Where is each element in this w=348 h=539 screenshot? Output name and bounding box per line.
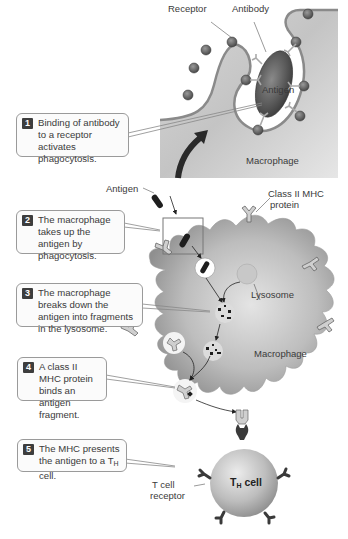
class2-mhc-label-line1: Class II MHC bbox=[268, 188, 324, 199]
step-2-badge: 2 bbox=[22, 215, 33, 226]
inset-antigen-label: Antigen bbox=[262, 84, 294, 95]
tcr-label-line2: receptor bbox=[150, 490, 185, 501]
antibody-label: Antibody bbox=[232, 3, 269, 14]
lysosome-label: Lysosome bbox=[251, 289, 294, 300]
step-3-badge: 3 bbox=[22, 288, 33, 299]
receptor-label: Receptor bbox=[168, 3, 207, 14]
th-cell-label: TH cell bbox=[230, 477, 262, 491]
step-4-badge: 4 bbox=[23, 362, 34, 373]
antigen-label: Antigen bbox=[106, 183, 138, 194]
step-3-text: The macrophage breaks down the antigen i… bbox=[38, 287, 133, 334]
step-1-callout: 1 Binding of antibody to a receptor acti… bbox=[16, 113, 129, 157]
macrophage-label: Macrophage bbox=[254, 348, 307, 359]
step-4-callout: 4 A class II MHC protein binds an antige… bbox=[17, 357, 107, 401]
step-1-badge: 1 bbox=[22, 118, 33, 129]
step-2-text: The macrophage takes up the antigen by p… bbox=[38, 214, 111, 261]
step-2-callout: 2 The macrophage takes up the antigen by… bbox=[16, 210, 125, 254]
step-5-badge: 5 bbox=[23, 444, 34, 455]
class2-mhc-label-line2: protein bbox=[270, 199, 299, 210]
step-5-callout: 5 The MHC presents the antigen to a TH c… bbox=[17, 439, 127, 472]
step-3-callout: 3 The macrophage breaks down the antigen… bbox=[16, 283, 143, 327]
th-cell bbox=[199, 424, 289, 523]
inset-macrophage-label: Macrophage bbox=[246, 155, 299, 166]
step-1-text: Binding of antibody to a receptor activa… bbox=[38, 117, 120, 164]
antigen-presentation-diagram: Receptor Antibody Antigen Macrophage Ant… bbox=[0, 0, 348, 539]
inset-phagocytosis-closeup bbox=[160, 5, 338, 178]
tcr-label-line1: T cell bbox=[152, 479, 175, 490]
